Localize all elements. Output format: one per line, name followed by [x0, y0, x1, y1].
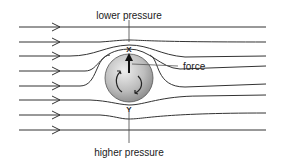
force-label: force — [183, 61, 206, 72]
streamline-3 — [19, 45, 266, 57]
magnus-effect-diagram: lower pressure higher pressure force X Y — [0, 0, 281, 168]
flow-arrows — [52, 23, 60, 134]
point-x-label: X — [126, 45, 132, 54]
lower-pressure-label: lower pressure — [96, 10, 162, 21]
point-y-label: Y — [126, 105, 132, 114]
streamline-5b — [150, 55, 266, 87]
streamline-7 — [19, 113, 266, 119]
higher-pressure-label: higher pressure — [94, 147, 164, 158]
